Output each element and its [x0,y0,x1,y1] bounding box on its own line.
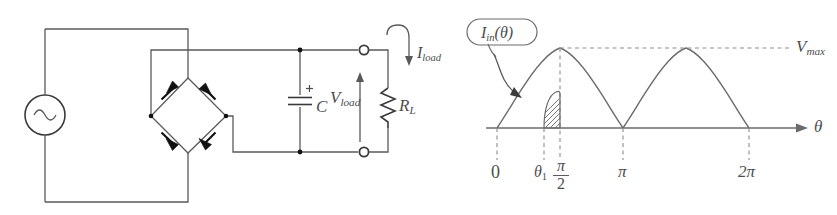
conduction-region-hatch-lines [528,92,596,130]
conduction-region-outline [544,91,560,128]
load-lead-top [369,50,388,88]
bridge-node-left [149,114,154,119]
tick-label-zero: 0 [491,163,500,181]
capacitor-label: C [316,98,327,115]
wire-bridge-right-to-bottom-rail [226,116,300,152]
waveform-group [467,19,808,160]
tick-label-two-pi: 2π [738,163,755,180]
conduction-region-hatched [528,91,596,130]
figure-root: C Vload RL Iload Iin(θ) Vmax θ 0 θ1 π 2 … [0,0,837,215]
iload-label: Iload [417,45,441,63]
callout-leader-line [494,54,514,92]
cap-plus-sign [306,85,313,92]
ac-source-sine-glyph [34,110,56,120]
figure-vector-layer [0,0,837,215]
bridge-diamond-outline [151,78,226,153]
wire-ac-to-bridge-bottom [45,153,188,202]
iload-arrow [387,25,413,66]
tick-label-pi: π [618,163,627,180]
cap-node-top [298,48,303,53]
waveform-x-axis-arrowhead [796,124,808,133]
vload-label: Vload [330,89,360,108]
tick-label-half-pi: π 2 [553,158,569,193]
load-resistor-label: RL [399,97,416,116]
callout-label: Iin(θ) [481,24,513,43]
circuit-group [25,25,413,202]
cap-node-bottom [298,150,303,155]
load-resistor-symbol [381,88,395,128]
vmax-label: Vmax [796,38,825,57]
waveform-hump-2 [623,48,749,128]
bridge-node-right [224,114,229,119]
load-lead-bottom [369,128,388,152]
tick-label-theta1: θ1 [534,164,547,182]
x-axis-label: θ [814,118,822,135]
wire-ac-to-bridge-top [45,29,188,78]
output-terminal-bottom [359,147,368,156]
output-terminal-top [359,45,368,54]
